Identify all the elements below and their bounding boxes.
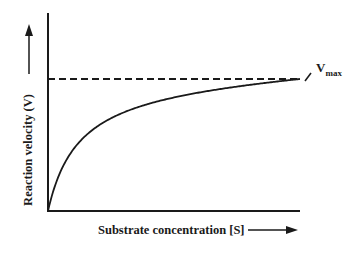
chart: Vmax Reaction velocity (V) Substrate con… <box>0 0 363 255</box>
x-axis-label: Substrate concentration [S] <box>98 223 245 237</box>
y-axis-label: Reaction velocity (V) <box>21 94 35 206</box>
michaelis-menten-curve <box>48 79 300 211</box>
vmax-label: Vmax <box>316 60 342 78</box>
x-axis-arrow <box>248 226 298 234</box>
y-axis-arrow <box>25 24 33 74</box>
vmax-pointer-tick <box>305 73 311 81</box>
